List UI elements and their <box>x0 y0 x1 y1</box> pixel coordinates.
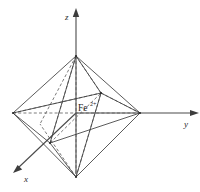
center-atom-label: Fe 2+ <box>78 101 97 113</box>
center-atom-symbol: Fe <box>78 103 88 113</box>
vertex-right <box>139 112 141 114</box>
center-atom-charge: 2+ <box>90 101 97 107</box>
edge-left-front <box>13 113 50 143</box>
vertex-back <box>100 92 102 94</box>
x-axis-arrowhead <box>13 165 22 173</box>
z-axis-arrowhead <box>73 8 79 17</box>
figure-container: z y x Fe 2+ <box>0 0 200 192</box>
axes-group <box>13 8 199 174</box>
vertex-front <box>49 142 51 144</box>
y-axis-arrowhead <box>190 110 199 116</box>
edge-front-right <box>50 113 140 143</box>
vertex-top <box>75 55 77 57</box>
vertex-bottom <box>75 176 77 178</box>
y-axis-label: y <box>183 119 188 129</box>
z-axis <box>73 8 79 174</box>
edge-top-left <box>13 56 76 113</box>
vertex-left <box>12 112 14 114</box>
hidden-edge-top-interior-left <box>40 56 76 124</box>
edge-bottom-front <box>50 143 76 177</box>
x-axis-label: x <box>23 174 28 184</box>
hidden-edge-bottom-interior-left <box>40 124 76 177</box>
edge-left-back-visible <box>13 93 101 113</box>
z-axis-label: z <box>64 12 69 22</box>
octahedron-diagram: z y x Fe 2+ <box>0 0 200 192</box>
